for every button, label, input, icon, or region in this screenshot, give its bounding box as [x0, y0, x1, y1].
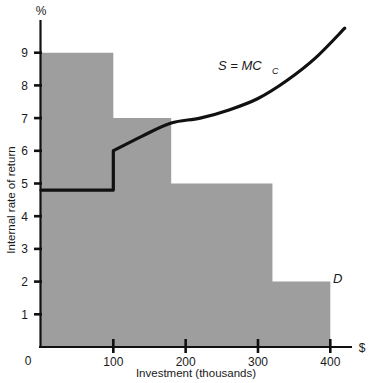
y-axis-tick-label: 1 [21, 308, 28, 322]
x-axis-tick-label: 400 [320, 355, 340, 369]
y-axis-tick-label: 3 [21, 242, 28, 256]
y-axis-tick-label: 5 [21, 177, 28, 191]
x-axis-tick-label: 100 [103, 355, 123, 369]
investment-demand-supply-chart: 123456789 100200300400 0 % $ Internal ra… [0, 0, 381, 383]
x-axis-title: Investment (thousands) [136, 367, 256, 379]
y-axis-tick-label: 2 [21, 275, 28, 289]
y-axis-tick-label: 7 [21, 112, 28, 126]
supply-curve-label-subscript: C [272, 66, 279, 76]
y-axis-tick-label: 6 [21, 144, 28, 158]
axis-origin-label: 0 [25, 354, 32, 368]
y-axis-tick-label: 8 [21, 79, 28, 93]
demand-curve-label: D [333, 271, 342, 286]
supply-curve-label-group: S = MC C [218, 58, 279, 76]
y-axis-tick-label: 9 [21, 46, 28, 60]
y-axis-tick-label: 4 [21, 210, 28, 224]
chart-canvas: 123456789 100200300400 0 % $ Internal ra… [0, 0, 381, 383]
y-axis-tick-labels: 123456789 [21, 46, 28, 322]
y-axis-title: Internal rate of return [5, 146, 17, 253]
demand-step-area [41, 53, 330, 347]
supply-curve-label: S = MC [218, 58, 262, 73]
y-axis-unit-label: % [36, 4, 47, 18]
x-axis-unit-label: $ [359, 341, 366, 355]
